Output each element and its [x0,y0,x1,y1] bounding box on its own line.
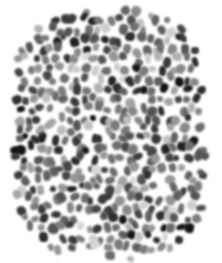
blob-mark [74,28,80,37]
blob-mark [101,166,109,173]
blob-mark [167,243,173,251]
blob-mark [166,222,176,233]
blob-mark [59,112,66,122]
blob-mark [73,84,82,96]
image-canvas [0,0,222,263]
blob-mark [17,83,27,93]
blob-mark [93,82,104,94]
blob-mark [159,66,166,76]
blob-mark [84,102,94,111]
blob-mark [48,77,56,85]
blob-mark [163,16,170,24]
blob-mark [194,122,205,133]
blob-mark [90,239,101,249]
blob-mark [73,120,82,132]
blob-mark [157,96,163,102]
blob-mark [170,85,179,95]
blob-mark [147,95,156,105]
blob-mark [57,233,67,245]
blob-mark [196,205,206,212]
blob-mark [80,72,90,83]
blob-mark [110,133,116,140]
blob-mark [159,82,170,94]
blob-mark [133,209,144,221]
blob-mark [37,131,48,144]
blob-mark [44,43,54,53]
blob-mark [67,202,74,213]
blob-mark [71,106,80,116]
blob-mark [59,33,65,41]
blob-mark [167,122,174,130]
blob-mark [194,107,203,116]
blob-mark [90,204,101,214]
blob-mark [54,145,64,155]
blob-mark [183,222,195,234]
blob-mark [119,52,128,61]
blob-mark [154,195,164,206]
blob-mark [122,116,131,125]
blob-mark [53,244,62,255]
blob-mark [148,181,158,190]
blob-mark [49,185,57,193]
blob-mark [102,222,112,235]
blob-mark [157,105,166,116]
blob-mark [149,66,158,74]
blob-mark [33,76,42,86]
blob-mark [28,93,39,105]
blob-mark [177,163,185,172]
blob-mark [102,105,111,114]
blob-mark [53,41,63,52]
blob-mark [184,52,191,61]
blob-mark [107,211,119,223]
blob-mark [173,154,181,162]
blob-mark [42,93,51,103]
blob-mark [43,121,54,130]
blob-mark [174,236,183,245]
blob-mark [35,173,41,183]
blob-mark [69,36,80,48]
blob-mark [171,52,182,62]
blob-mark [75,203,84,213]
blob-mark [174,96,183,105]
blob-mark [35,103,45,111]
blob-mark [145,115,151,125]
blob-mark [96,53,107,64]
blob-mark [16,105,26,113]
blob-mark [145,211,152,222]
blob-mark [191,47,199,55]
blob-mark [25,41,35,53]
grayscale-blob-field [0,0,222,263]
blob-mark [151,154,161,163]
blob-mark [36,185,45,195]
blob-mark [169,212,178,222]
blob-mark [125,32,135,41]
blob-mark [57,94,69,104]
blob-mark [34,24,44,32]
blob-mark [46,103,54,112]
blob-mark [68,96,80,108]
blob-mark [91,223,103,235]
blob-mark [178,121,192,135]
blob-mark [174,63,187,76]
blob-mark [183,85,194,93]
blob-mark [58,72,70,84]
blob-mark [83,121,93,132]
blob-mark [133,152,144,161]
blob-mark [61,135,70,146]
blob-mark [64,220,74,229]
blob-mark [133,192,143,203]
blob-mark [146,245,156,254]
blob-mark [168,162,178,173]
blob-mark [92,42,100,51]
blob-mark [101,144,107,151]
blob-mark [71,65,80,73]
blob-mark [67,12,78,24]
blob-mark [76,151,84,160]
blob-mark [178,203,186,215]
blob-mark [52,135,60,147]
blob-mark [37,222,47,232]
blob-mark [33,55,40,63]
blob-mark [156,161,168,173]
blob-mark [198,171,208,180]
blob-mark [66,185,76,192]
